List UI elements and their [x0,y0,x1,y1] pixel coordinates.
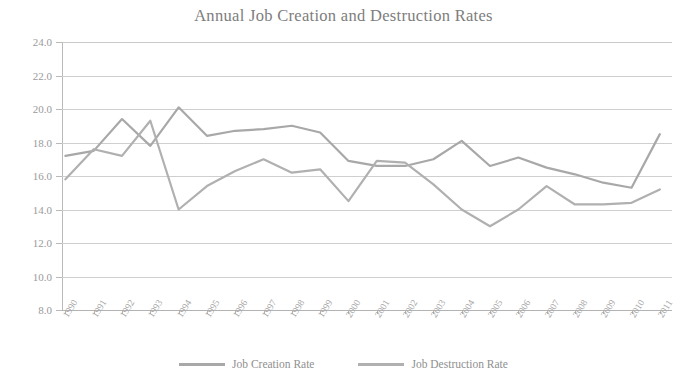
legend-swatch-icon [179,363,225,366]
legend-swatch-icon [358,363,404,366]
legend-label: Job Creation Rate [232,358,314,370]
y-axis-tick-label: 14.0 [33,204,52,216]
legend-item[interactable]: Job Destruction Rate [358,357,507,370]
chart-title: Annual Job Creation and Destruction Rate… [0,6,687,26]
legend-item[interactable]: Job Creation Rate [179,357,314,370]
y-axis-tick-label: 12.0 [33,237,52,249]
y-axis-tick-label: 22.0 [33,70,52,82]
y-axis-tick-label: 16.0 [33,170,52,182]
chart-figure: Annual Job Creation and Destruction Rate… [0,0,687,376]
series-line [65,107,659,187]
plot-area [62,42,672,310]
legend-label: Job Destruction Rate [411,358,507,370]
chart-legend: Job Creation RateJob Destruction Rate [0,357,687,370]
x-axis-tick-labels: 1990199119921993199419951996199719981999… [62,314,672,358]
y-axis-tick-label: 10.0 [33,271,52,283]
y-axis-tick-label: 18.0 [33,137,52,149]
y-axis-tick-labels: 24.022.020.018.016.014.012.010.08.0 [0,42,58,310]
y-axis-tick-label: 20.0 [33,103,52,115]
series-lines [62,42,672,310]
y-axis-tick-label: 8.0 [38,304,52,316]
y-axis-tick-label: 24.0 [33,36,52,48]
